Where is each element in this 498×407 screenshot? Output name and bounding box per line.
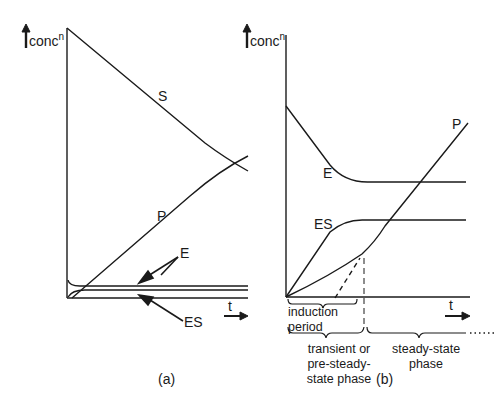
- panel-a-y-axis-label: concn: [29, 32, 64, 48]
- panel-b-label-e: E: [323, 166, 332, 180]
- es-pointer-shaft: [150, 300, 183, 321]
- panel-a-curve-e: [68, 280, 248, 286]
- steady-brace: [367, 327, 466, 338]
- panel-a-curve-p: [72, 156, 248, 298]
- panel-b-label-p: P: [452, 117, 461, 131]
- panel-a-x-axis-label: t: [228, 299, 232, 313]
- panel-b-y-axis-label: concn: [250, 32, 285, 48]
- es-pointer-arrowhead: [139, 295, 153, 305]
- panel-b-x-arrow-icon: [462, 312, 470, 320]
- panel-b-caption: (b): [376, 372, 393, 386]
- panel-b-x-axis-label: t: [449, 298, 453, 312]
- panel-b-curve-p: [286, 123, 468, 297]
- transient-phase-annotation: transient or pre-steady- state phase: [289, 342, 389, 387]
- panel-b-curve-es: [286, 220, 466, 297]
- panel-a-x-arrow-icon: [240, 312, 248, 320]
- panel-a-label-e: E: [180, 246, 189, 260]
- steady-state-phase-annotation: steady-state phase: [392, 342, 460, 372]
- panel-a-caption: (a): [158, 372, 175, 386]
- e-pointer-arrowhead: [139, 271, 153, 283]
- induction-period-annotation: induction period: [288, 305, 338, 335]
- panel-b-label-es: ES: [314, 217, 333, 231]
- panel-a-label-s: S: [158, 89, 167, 103]
- panel-a-curve-es: [68, 290, 248, 297]
- panel-a-label-es: ES: [184, 315, 203, 329]
- panel-b-curve-e: [286, 106, 466, 182]
- panel-b-y-arrow-icon: [243, 24, 251, 32]
- panel-a-y-arrow-icon: [22, 24, 30, 32]
- panel-a-label-p: P: [157, 209, 166, 223]
